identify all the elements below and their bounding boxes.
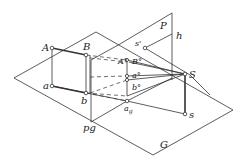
label-pg: pg <box>83 122 96 133</box>
label-a-g: ag <box>124 104 133 115</box>
label-b: b <box>81 95 87 106</box>
point-a-persp <box>125 74 128 77</box>
label-b-persp: b° <box>132 83 141 92</box>
diagram-canvas: P h s' A B A° B° a° b° S a b ag s pg G <box>0 0 241 163</box>
point-a <box>50 84 54 88</box>
label-B-persp: B° <box>131 57 142 66</box>
label-a: a <box>43 80 49 91</box>
perspective-diagram: P h s' A B A° B° a° b° S a b ag s pg G <box>0 0 241 163</box>
horizon-h <box>145 34 172 48</box>
label-s-prime: s' <box>135 39 141 48</box>
point-S <box>183 72 187 76</box>
ground-line-pg <box>91 101 127 122</box>
label-a-persp: a° <box>132 71 141 80</box>
point-b-persp <box>125 78 128 81</box>
label-A: A <box>41 42 49 53</box>
point-s <box>183 112 187 116</box>
label-S: S <box>189 69 196 80</box>
label-B: B <box>82 41 90 52</box>
point-a-g <box>125 99 129 103</box>
label-h: h <box>176 30 182 41</box>
point-A <box>50 46 54 50</box>
label-s: s <box>189 109 194 120</box>
label-G: G <box>160 139 168 150</box>
label-A-persp: A° <box>117 57 128 66</box>
point-B <box>84 53 88 57</box>
label-P: P <box>159 20 167 31</box>
point-s-prime <box>143 46 147 50</box>
